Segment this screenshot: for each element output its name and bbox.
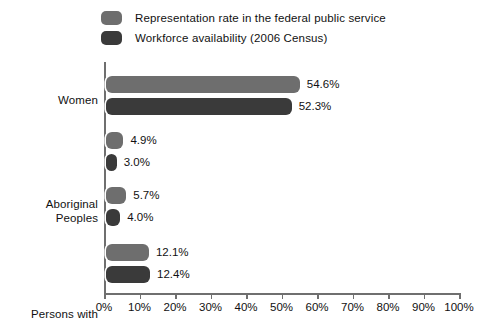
x-axis-tick-label: 40% xyxy=(234,301,257,313)
bar-value-women-workforce: 52.3% xyxy=(299,99,332,114)
legend-swatch-representation-rate xyxy=(101,11,122,25)
bar-row-minorities-workforce: 12.4% xyxy=(106,266,220,283)
x-axis-tick xyxy=(211,293,213,299)
x-axis-tick-label: 0% xyxy=(96,301,113,313)
bar-row-disabilities-workforce: 4.0% xyxy=(106,209,190,226)
x-axis-tick-label: 30% xyxy=(199,301,222,313)
bar-value-aboriginal-workforce: 3.0% xyxy=(124,155,150,170)
x-axis-tick xyxy=(317,293,319,299)
bar-group-aboriginal-peoples: AboriginalPeoples 4.9% 3.0% xyxy=(0,132,487,176)
x-axis-tick-label: 20% xyxy=(163,301,186,313)
category-label-women: Women xyxy=(0,94,98,108)
bar-row-aboriginal-representation: 4.9% xyxy=(106,132,193,149)
x-axis-tick-label: 100% xyxy=(444,301,473,313)
x-axis-tick-label: 90% xyxy=(412,301,435,313)
bar-group-persons-with-disabilities: Persons withDisabilities 5.7% 4.0% xyxy=(0,187,487,231)
legend-item-workforce-availability: Workforce availability (2006 Census) xyxy=(101,28,431,48)
bar-aboriginal-workforce xyxy=(106,154,117,171)
bar-women-representation xyxy=(106,76,300,93)
bar-aboriginal-representation xyxy=(106,132,123,149)
x-axis: 0%10%20%30%40%50%60%70%80%90%100% xyxy=(104,293,461,321)
category-label-line: Women xyxy=(0,94,98,108)
bar-value-women-representation: 54.6% xyxy=(307,77,340,92)
x-axis-tick-label: 80% xyxy=(376,301,399,313)
bar-value-minorities-workforce: 12.4% xyxy=(157,267,190,282)
grouped-bar-chart: Representation rate in the federal publi… xyxy=(0,0,487,321)
bar-women-workforce xyxy=(106,98,292,115)
bar-minorities-representation xyxy=(106,244,149,261)
legend-swatch-workforce-availability xyxy=(101,31,122,45)
bar-group-visible-minorities: Members ofVisible Minorities 12.1% 12.4% xyxy=(0,244,487,288)
bar-value-disabilities-representation: 5.7% xyxy=(133,188,159,203)
category-label-persons-with-disabilities: Persons withDisabilities xyxy=(0,308,98,321)
x-axis-tick xyxy=(246,293,248,299)
x-axis-tick-label: 50% xyxy=(270,301,293,313)
x-axis-tick-label: 70% xyxy=(341,301,364,313)
bar-value-minorities-representation: 12.1% xyxy=(156,245,189,260)
bar-disabilities-workforce xyxy=(106,209,120,226)
x-axis-tick xyxy=(388,293,390,299)
x-axis-tick xyxy=(175,293,177,299)
legend-label-representation-rate: Representation rate in the federal publi… xyxy=(135,12,386,24)
bar-value-disabilities-workforce: 4.0% xyxy=(127,210,153,225)
bar-row-disabilities-representation: 5.7% xyxy=(106,187,196,204)
x-axis-tick xyxy=(459,293,461,299)
bar-row-minorities-representation: 12.1% xyxy=(106,244,219,261)
legend-label-workforce-availability: Workforce availability (2006 Census) xyxy=(135,32,327,44)
plot-area: Women 54.6% 52.3% AboriginalPeoples 4.9%… xyxy=(0,62,487,294)
chart-legend: Representation rate in the federal publi… xyxy=(101,8,431,48)
bar-row-women-representation: 54.6% xyxy=(106,76,370,93)
x-axis-tick xyxy=(282,293,284,299)
legend-item-representation-rate: Representation rate in the federal publi… xyxy=(101,8,431,28)
x-axis-tick xyxy=(140,293,142,299)
x-axis-tick xyxy=(424,293,426,299)
bar-row-aboriginal-workforce: 3.0% xyxy=(106,154,187,171)
bar-minorities-workforce xyxy=(106,266,150,283)
bar-row-women-workforce: 52.3% xyxy=(106,98,362,115)
x-axis-tick xyxy=(353,293,355,299)
bar-group-women: Women 54.6% 52.3% xyxy=(0,76,487,120)
x-axis-tick-label: 10% xyxy=(128,301,151,313)
x-axis-tick xyxy=(104,293,106,299)
bar-disabilities-representation xyxy=(106,187,126,204)
x-axis-tick-label: 60% xyxy=(305,301,328,313)
bar-value-aboriginal-representation: 4.9% xyxy=(130,133,156,148)
category-label-line: Persons with xyxy=(0,308,98,321)
